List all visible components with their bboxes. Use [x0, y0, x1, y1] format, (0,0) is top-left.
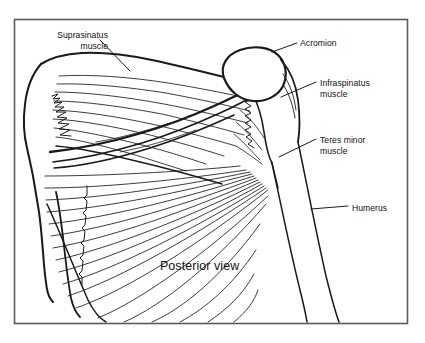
figure-frame	[15, 20, 408, 324]
anatomy-illustration	[0, 0, 425, 343]
label-acromion: Acromion	[300, 38, 337, 49]
label-supraspinatus-muscle: Suprasinatus muscle	[16, 30, 108, 51]
label-infraspinatus-muscle: Infraspinatus muscle	[320, 78, 370, 99]
label-teres-minor-muscle: Teres minor muscle	[320, 135, 365, 156]
figure-page: Suprasinatus muscle Acromion Infraspinat…	[0, 0, 425, 343]
label-humerus: Humerus	[352, 203, 387, 214]
figure-caption-posterior-view: Posterior view	[160, 261, 239, 272]
